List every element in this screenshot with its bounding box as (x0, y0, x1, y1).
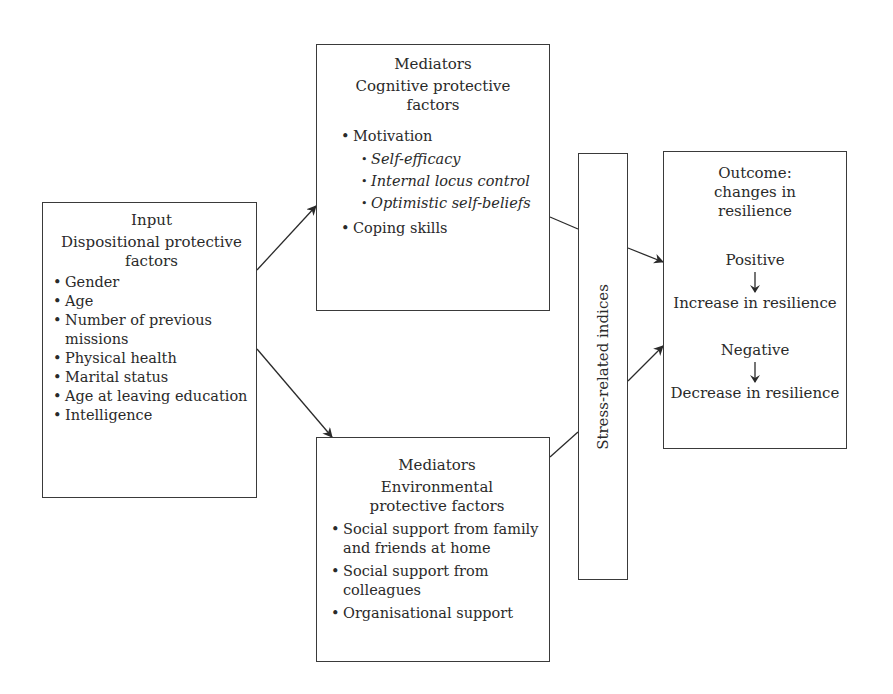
list-item: Internal locus control (359, 172, 541, 191)
list-item-label: Motivation (353, 128, 432, 144)
line-cognitive-to-stress (550, 217, 578, 229)
arrow-down-icon (749, 362, 761, 384)
stress-label: Stress-related indices (594, 284, 612, 450)
increase-label: Increase in resilience (668, 294, 842, 313)
cognitive-list-tail: Coping skills (339, 219, 541, 238)
stress-related-indices-bar: Stress-related indices (578, 153, 628, 580)
environmental-title: Mediators (329, 456, 545, 475)
list-item: Gender (51, 273, 252, 292)
arrow-input-to-cognitive (257, 206, 316, 270)
cognitive-title: Mediators (325, 55, 541, 74)
negative-label: Negative (668, 341, 842, 360)
list-item: Number of previous missions (51, 311, 252, 349)
environmental-list: Social support from family and friends a… (329, 520, 545, 623)
list-item: Self-efficacy (359, 150, 541, 169)
list-item: Optimistic self-beliefs (359, 194, 541, 213)
outcome-title: Outcome: changes in resilience (668, 164, 842, 221)
cognitive-list: Motivation (339, 127, 541, 146)
input-subtitle: Dispositional protective factors (51, 233, 252, 271)
arrow-stress-to-outcome-negative (628, 346, 663, 381)
arrow-down-icon (749, 272, 761, 294)
list-item: Intelligence (51, 406, 252, 425)
list-item: Social support from family and friends a… (329, 520, 545, 558)
arrow-stress-to-outcome-positive (628, 248, 663, 262)
motivation-sublist: Self-efficacy Internal locus control Opt… (339, 150, 541, 213)
list-item: Social support from colleagues (329, 562, 545, 600)
input-list: Gender Age Number of previous missions P… (51, 273, 252, 425)
cognitive-mediators-box: Mediators Cognitive protective factors M… (316, 44, 550, 311)
environmental-mediators-box: Mediators Environmental protective facto… (316, 437, 550, 662)
list-item: Age (51, 292, 252, 311)
list-item: Motivation (339, 127, 541, 146)
cognitive-subtitle: Cognitive protective factors (325, 77, 541, 115)
list-item: Marital status (51, 368, 252, 387)
list-item: Physical health (51, 349, 252, 368)
outcome-box: Outcome: changes in resilience Positive … (663, 151, 847, 449)
environmental-subtitle: Environmental protective factors (329, 478, 545, 516)
positive-label: Positive (668, 251, 842, 270)
line-environmental-to-stress (550, 432, 578, 457)
arrow-input-to-environmental (257, 349, 332, 437)
input-box: Input Dispositional protective factors G… (42, 202, 257, 498)
input-title: Input (51, 211, 252, 230)
list-item: Coping skills (339, 219, 541, 238)
list-item: Organisational support (329, 604, 545, 623)
list-item: Age at leaving education (51, 387, 252, 406)
decrease-label: Decrease in resilience (668, 384, 842, 403)
